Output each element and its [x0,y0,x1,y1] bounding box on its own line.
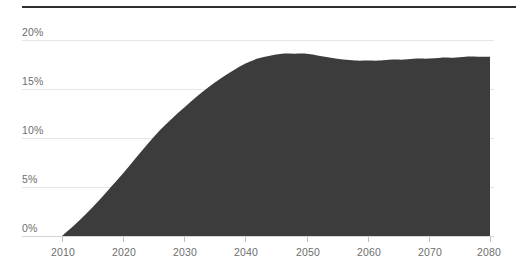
xtick-label-2030: 2030 [173,246,197,258]
gridline-20 [22,40,494,41]
xtick-label-2060: 2060 [357,246,381,258]
plot-area: 20% 15% 10% 5% 0% 2010 2020 2030 2040 20… [0,0,516,275]
axis-baseline-0 [22,236,494,237]
xtick-label-2020: 2020 [112,246,136,258]
xtick-label-2050: 2050 [296,246,320,258]
gridline-10 [22,138,494,139]
xtick-mark-2060 [368,237,369,242]
ytick-label-5: 5% [22,173,38,187]
ytick-label-20: 20% [22,26,44,40]
xtick-label-2080: 2080 [477,246,501,258]
ytick-label-0: 0% [22,222,38,236]
xtick-mark-2080 [490,237,491,242]
ytick-label-15: 15% [22,75,44,89]
area-series-path [62,54,490,236]
xtick-mark-2050 [307,237,308,242]
xtick-label-2070: 2070 [418,246,442,258]
gridline-15 [22,89,494,90]
area-chart: 20% 15% 10% 5% 0% 2010 2020 2030 2040 20… [0,0,516,275]
ytick-label-10: 10% [22,124,44,138]
xtick-mark-2070 [429,237,430,242]
xtick-mark-2020 [123,237,124,242]
xtick-label-2040: 2040 [234,246,258,258]
xtick-mark-2010 [62,237,63,242]
xtick-mark-2030 [184,237,185,242]
xtick-label-2010: 2010 [51,246,75,258]
gridline-5 [22,187,494,188]
xtick-mark-2040 [245,237,246,242]
